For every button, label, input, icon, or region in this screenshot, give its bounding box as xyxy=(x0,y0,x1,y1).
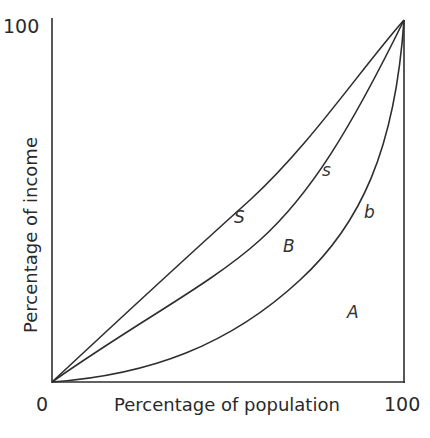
label-region-S: S xyxy=(234,207,245,227)
y-axis-label: Percentage of income xyxy=(20,137,41,333)
label-curve-s: s xyxy=(322,160,331,180)
y-tick-100: 100 xyxy=(3,15,39,37)
curve-s xyxy=(52,20,404,382)
curve-b xyxy=(52,20,404,382)
curve-S xyxy=(52,20,404,382)
x-tick-0: 0 xyxy=(36,393,48,415)
label-region-B: B xyxy=(283,236,295,256)
x-tick-100: 100 xyxy=(384,393,420,415)
label-curve-b: b xyxy=(364,202,375,222)
x-axis-label: Percentage of population xyxy=(114,394,340,415)
label-region-A: A xyxy=(346,302,359,322)
lorenz-chart: 100 0 100 Percentage of population Perce… xyxy=(0,0,430,438)
